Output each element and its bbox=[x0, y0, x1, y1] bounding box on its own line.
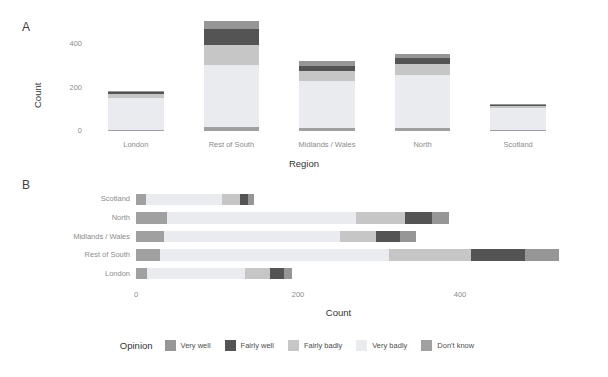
legend-item[interactable]: Very well bbox=[165, 340, 211, 351]
panel-b-bar-segment[interactable] bbox=[136, 231, 164, 243]
legend-swatch-fairly-badly bbox=[288, 340, 299, 351]
panel-b-bar-segment[interactable] bbox=[240, 194, 248, 206]
panel-b-bar[interactable] bbox=[136, 194, 254, 206]
panel-b-tag: B bbox=[22, 178, 30, 192]
panel-a-bar[interactable] bbox=[108, 91, 163, 131]
panel-b-bar-segment[interactable] bbox=[136, 249, 160, 261]
panel-a-bar-segment[interactable] bbox=[395, 75, 450, 127]
panel-b-bar-segment[interactable] bbox=[146, 194, 222, 206]
panel-b-bar[interactable] bbox=[136, 212, 449, 224]
panel-a-bar-segment[interactable] bbox=[204, 45, 259, 65]
legend-title: Opinion bbox=[120, 340, 153, 351]
panel-a-bar[interactable] bbox=[299, 61, 354, 131]
panel-b-bar-segment[interactable] bbox=[340, 231, 376, 243]
legend-swatch-fairly-well bbox=[225, 340, 236, 351]
panel-b-x-tick-label: 400 bbox=[440, 290, 480, 299]
panel-b-bar-segment[interactable] bbox=[284, 268, 292, 280]
panel-b-y-tick-label: Scotland bbox=[20, 194, 130, 203]
panel-a-bar-segment[interactable] bbox=[108, 98, 163, 130]
panel-b-bar-segment[interactable] bbox=[136, 194, 146, 206]
panel-b-bar-segment[interactable] bbox=[164, 231, 341, 243]
legend-label: Very well bbox=[181, 341, 211, 350]
legend-label: Fairly well bbox=[241, 341, 274, 350]
panel-b-bar-segment[interactable] bbox=[405, 212, 433, 224]
panel-b-bar[interactable] bbox=[136, 231, 416, 243]
panel-b-bar-segment[interactable] bbox=[136, 268, 147, 280]
panel-b-bar-segment[interactable] bbox=[389, 249, 472, 261]
panel-a-y-axis-title: Count bbox=[32, 83, 43, 108]
panel-b-bar-segment[interactable] bbox=[245, 268, 271, 280]
panel-a-bar[interactable] bbox=[395, 54, 450, 131]
legend-item[interactable]: Very badly bbox=[356, 340, 407, 351]
panel-a-x-tick-label: London bbox=[88, 140, 184, 149]
legend-item[interactable]: Don't know bbox=[421, 340, 474, 351]
panel-b-y-tick-label: Midlands / Wales bbox=[20, 232, 130, 241]
panel-a-bar-segment[interactable] bbox=[204, 65, 259, 128]
panel-b-plot-area bbox=[136, 190, 541, 283]
legend-swatch-very-well bbox=[165, 340, 176, 351]
legend-swatch-very-badly bbox=[356, 340, 367, 351]
panel-a-bar-segment[interactable] bbox=[108, 130, 163, 131]
panel-b-bar[interactable] bbox=[136, 249, 559, 261]
panel-b-bar-segment[interactable] bbox=[136, 212, 167, 224]
panel-a-bar-segment[interactable] bbox=[490, 130, 545, 131]
panel-a-tag: A bbox=[22, 20, 30, 34]
panel-b-bar[interactable] bbox=[136, 268, 292, 280]
panel-b-y-tick-label: North bbox=[20, 213, 130, 222]
panel-b-bar-segment[interactable] bbox=[525, 249, 559, 261]
panel-a: A Count 0200400 LondonRest of SouthMidla… bbox=[0, 0, 608, 176]
panel-a-x-tick-label: Scotland bbox=[470, 140, 566, 149]
panel-a-y-tick-label: 400 bbox=[58, 39, 82, 48]
panel-b-bar-segment[interactable] bbox=[270, 268, 284, 280]
panel-b-bar-segment[interactable] bbox=[167, 212, 357, 224]
panel-a-bar-segment[interactable] bbox=[299, 81, 354, 128]
panel-b: B ScotlandNorthMidlands / WalesRest of S… bbox=[0, 176, 608, 316]
panel-a-bar-segment[interactable] bbox=[395, 64, 450, 75]
panel-a-x-tick-label: Midlands / Wales bbox=[279, 140, 375, 149]
panel-a-bar-segment[interactable] bbox=[299, 71, 354, 80]
panel-a-bar-segment[interactable] bbox=[204, 127, 259, 131]
panel-a-plot-area bbox=[88, 18, 566, 131]
panel-a-bar-segment[interactable] bbox=[299, 128, 354, 131]
panel-b-bar-segment[interactable] bbox=[222, 194, 240, 206]
legend: Opinion Very wellFairly wellFairly badly… bbox=[0, 330, 608, 360]
panel-b-bar-segment[interactable] bbox=[356, 212, 405, 224]
panel-b-x-tick-label: 0 bbox=[116, 290, 156, 299]
panel-a-bar[interactable] bbox=[204, 21, 259, 131]
panel-b-bar-segment[interactable] bbox=[400, 231, 416, 243]
panel-b-bar-segment[interactable] bbox=[432, 212, 448, 224]
panel-a-x-tick-label: North bbox=[375, 140, 471, 149]
panel-a-bar-segment[interactable] bbox=[204, 21, 259, 30]
legend-label: Don't know bbox=[437, 341, 474, 350]
legend-item[interactable]: Fairly well bbox=[225, 340, 274, 351]
panel-a-y-tick-label: 0 bbox=[58, 126, 82, 135]
figure-canvas: A Count 0200400 LondonRest of SouthMidla… bbox=[0, 0, 608, 377]
panel-a-x-axis-title: Region bbox=[0, 158, 608, 169]
panel-b-x-tick-label: 200 bbox=[278, 290, 318, 299]
panel-b-bar-segment[interactable] bbox=[471, 249, 524, 261]
panel-a-bar-segment[interactable] bbox=[204, 29, 259, 44]
panel-a-y-tick-label: 200 bbox=[58, 83, 82, 92]
panel-b-bar-segment[interactable] bbox=[248, 194, 254, 206]
panel-b-bar-segment[interactable] bbox=[160, 249, 388, 261]
legend-label: Fairly badly bbox=[304, 341, 342, 350]
legend-label: Very badly bbox=[372, 341, 407, 350]
panel-b-bar-segment[interactable] bbox=[147, 268, 244, 280]
panel-b-x-axis-title: Count bbox=[136, 307, 541, 318]
legend-items: Very wellFairly wellFairly badlyVery bad… bbox=[165, 340, 489, 351]
panel-a-bar-segment[interactable] bbox=[490, 108, 545, 131]
panel-a-bar[interactable] bbox=[490, 104, 545, 131]
legend-swatch-don-t-know bbox=[421, 340, 432, 351]
legend-item[interactable]: Fairly badly bbox=[288, 340, 342, 351]
panel-a-x-tick-label: Rest of South bbox=[184, 140, 280, 149]
panel-b-bar-segment[interactable] bbox=[376, 231, 400, 243]
panel-a-bar-segment[interactable] bbox=[395, 128, 450, 131]
panel-b-y-tick-label: London bbox=[20, 269, 130, 278]
panel-b-y-tick-label: Rest of South bbox=[20, 250, 130, 259]
